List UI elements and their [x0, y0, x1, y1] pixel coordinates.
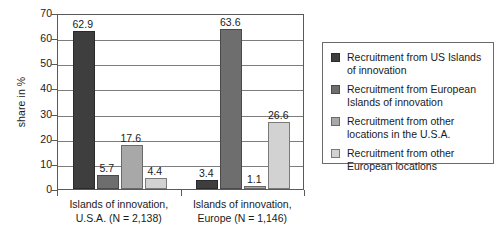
- bar: [97, 175, 119, 189]
- bar-value-label: 63.6: [209, 16, 251, 28]
- bar-value-label: 17.6: [110, 132, 152, 144]
- y-tick-label: 70: [22, 7, 52, 19]
- bar: [145, 178, 167, 189]
- legend-item[interactable]: Recruitment from otherlocations in the U…: [331, 115, 487, 140]
- y-tick-label: 50: [22, 57, 52, 69]
- bar-value-label: 3.4: [185, 167, 227, 179]
- bar-chart-figure: share in % 010203040506070 62.95.717.64.…: [0, 0, 499, 236]
- x-tick-mark: [181, 190, 182, 196]
- legend-label-line1: Recruitment from other: [347, 115, 454, 128]
- legend-item[interactable]: Recruitment from EuropeanIslands of inno…: [331, 83, 487, 108]
- legend-label: Recruitment from EuropeanIslands of inno…: [347, 83, 476, 108]
- y-tick-label: 20: [22, 133, 52, 145]
- legend-label: Recruitment from US Islandsof innovation: [347, 51, 481, 76]
- chart-legend: Recruitment from US Islandsof innovation…: [322, 42, 494, 164]
- legend-swatch-icon: [331, 149, 340, 158]
- legend-item[interactable]: Recruitment from US Islandsof innovation: [331, 51, 487, 76]
- legend-label: Recruitment from otherlocations in the U…: [347, 115, 454, 140]
- legend-label-line2: Islands of innovation: [347, 96, 476, 109]
- bar-value-label: 4.4: [134, 165, 176, 177]
- bar-value-label: 5.7: [86, 162, 128, 174]
- gridline: [58, 90, 303, 91]
- legend-label-line2: locations in the U.S.A.: [347, 128, 454, 141]
- legend-swatch-icon: [331, 53, 340, 62]
- bar: [244, 186, 266, 189]
- legend-label: Recruitment from otherEuropean locations: [347, 147, 454, 172]
- bar-value-label: 62.9: [62, 18, 104, 30]
- gridline: [58, 40, 303, 41]
- legend-label-line1: Recruitment from European: [347, 83, 476, 96]
- y-tick-label: 60: [22, 32, 52, 44]
- y-tick-label: 40: [22, 82, 52, 94]
- bar-value-label: 26.6: [257, 109, 299, 121]
- y-tick-label: 30: [22, 108, 52, 120]
- x-category-label-line2: Europe (N = 1,146): [167, 211, 317, 225]
- x-tick-mark: [304, 190, 305, 196]
- bar: [220, 29, 242, 189]
- bar-value-label: 1.1: [233, 173, 275, 185]
- gridline: [58, 65, 303, 66]
- legend-swatch-icon: [331, 85, 340, 94]
- x-category-label: Islands of innovation,Europe (N = 1,146): [167, 197, 317, 225]
- legend-label-line2: European locations: [347, 160, 454, 173]
- y-tick-label: 10: [22, 158, 52, 170]
- legend-label-line1: Recruitment from other: [347, 147, 454, 160]
- legend-label-line2: of innovation: [347, 64, 481, 77]
- gridline: [58, 141, 303, 142]
- legend-swatch-icon: [331, 117, 340, 126]
- legend-item[interactable]: Recruitment from otherEuropean locations: [331, 147, 487, 172]
- legend-label-line1: Recruitment from US Islands: [347, 51, 481, 64]
- x-category-label-line1: Islands of innovation,: [167, 197, 317, 211]
- x-tick-mark: [57, 190, 58, 196]
- y-tick-label: 0: [22, 183, 52, 195]
- bar: [196, 180, 218, 189]
